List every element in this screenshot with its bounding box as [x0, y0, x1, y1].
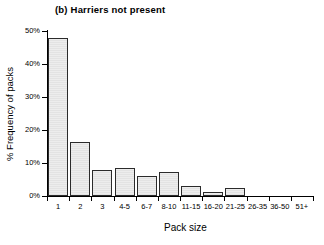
x-tick-label: 21-25 [224, 203, 246, 211]
chart-title: (b) Harriers not present [55, 4, 165, 15]
bar [115, 168, 135, 196]
x-tick-mark [180, 197, 181, 201]
bar [159, 172, 179, 196]
bar [70, 142, 90, 196]
y-tick-label: 0% [12, 192, 40, 200]
x-tick-label: 8-10 [158, 203, 180, 211]
x-tick-label: 4-5 [114, 203, 136, 211]
x-tick-mark [114, 197, 115, 201]
bar [225, 188, 245, 196]
plot-area [47, 31, 313, 196]
y-tick-label: 20% [12, 126, 40, 134]
x-tick-label: 26-35 [247, 203, 269, 211]
x-tick-mark [47, 197, 48, 201]
x-tick-mark [202, 197, 203, 201]
x-tick-label: 36-50 [269, 203, 291, 211]
y-tick-label: 30% [12, 93, 40, 101]
x-tick-mark [224, 197, 225, 201]
x-tick-label: 11-15 [180, 203, 202, 211]
bar [203, 192, 223, 196]
x-tick-label: 1 [47, 203, 69, 211]
x-tick-mark [269, 197, 270, 201]
bar [48, 38, 68, 196]
y-tick-label: 40% [12, 60, 40, 68]
x-tick-mark [158, 197, 159, 201]
y-tick-label: 10% [12, 159, 40, 167]
y-tick-label: 50% [12, 27, 40, 35]
x-axis-title: Pack size [0, 222, 324, 233]
bar [137, 176, 157, 196]
y-axis-title: % Frequency of packs [2, 38, 16, 190]
x-tick-label: 16-20 [202, 203, 224, 211]
x-tick-label: 3 [91, 203, 113, 211]
x-tick-label: 51+ [291, 203, 313, 211]
x-tick-mark [69, 197, 70, 201]
x-tick-mark [291, 197, 292, 201]
x-tick-mark [91, 197, 92, 201]
x-tick-label: 6-7 [136, 203, 158, 211]
x-tick-label: 2 [69, 203, 91, 211]
x-tick-mark [136, 197, 137, 201]
bar [181, 186, 201, 196]
bar [92, 170, 112, 196]
chart-figure: (b) Harriers not present 0%10%20%30%40%5… [0, 0, 324, 245]
y-axis-title-text: % Frequency of packs [4, 67, 15, 161]
x-tick-mark [313, 197, 314, 201]
x-tick-mark [247, 197, 248, 201]
